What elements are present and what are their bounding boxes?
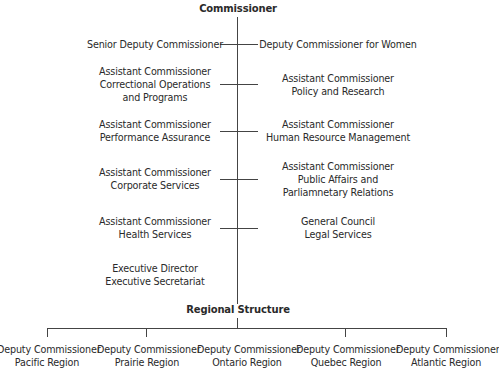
node-executive-director: Executive Director Executive Secretariat	[65, 262, 245, 288]
node-region-pacific: Deputy Commissioner Pacific Region	[0, 343, 97, 369]
regional-bar	[47, 328, 447, 329]
drop-prairie	[146, 328, 147, 337]
node-line: Legal Services	[238, 228, 438, 241]
node-line: and Programs	[65, 91, 245, 104]
node-region-ontario: Deputy Commissioner Ontario Region	[197, 343, 297, 369]
node-region-prairie: Deputy Commissioner Prairie Region	[97, 343, 197, 369]
node-line: Ontario Region	[197, 356, 297, 369]
node-line: Assistant Commissioner	[65, 166, 245, 179]
commissioner-title: Commissioner	[188, 2, 288, 15]
node-line: Deputy Commissioner	[296, 343, 396, 356]
node-line: Executive Director	[65, 262, 245, 275]
node-line: Assistant Commissioner	[238, 72, 438, 85]
node-ac-policy-research: Assistant Commissioner Policy and Resear…	[238, 72, 438, 98]
node-line: Parliamnetary Relations	[238, 186, 438, 199]
node-ac-correctional-operations: Assistant Commissioner Correctional Oper…	[65, 65, 245, 104]
node-line: Health Services	[65, 228, 245, 241]
node-line: Assistant Commissioner	[238, 118, 438, 131]
node-line: Correctional Operations	[65, 78, 245, 91]
node-line: Assistant Commissioner	[65, 65, 245, 78]
node-line: Deputy Commissioner	[0, 343, 97, 356]
node-region-atlantic: Deputy Commissioner Atlantic Region	[396, 343, 496, 369]
regional-structure-title: Regional Structure	[178, 303, 298, 316]
node-deputy-commissioner-women: Deputy Commissioner for Women	[238, 38, 438, 51]
node-ac-health-services: Assistant Commissioner Health Services	[65, 215, 245, 241]
node-line: Deputy Commissioner for Women	[238, 38, 438, 51]
node-line: Executive Secretariat	[65, 275, 245, 288]
drop-atlantic	[446, 328, 447, 337]
node-senior-deputy-commissioner: Senior Deputy Commissioner	[65, 38, 245, 51]
node-line: Deputy Commissioner	[396, 343, 496, 356]
node-line: Prairie Region	[97, 356, 197, 369]
node-line: Deputy Commissioner	[197, 343, 297, 356]
node-line: Assistant Commissioner	[65, 215, 245, 228]
node-ac-public-affairs: Assistant Commissioner Public Affairs an…	[238, 160, 438, 199]
node-line: Quebec Region	[296, 356, 396, 369]
drop-pacific	[47, 328, 48, 337]
node-line: Assistant Commissioner	[65, 118, 245, 131]
node-region-quebec: Deputy Commissioner Quebec Region	[296, 343, 396, 369]
node-line: Public Affairs and	[238, 173, 438, 186]
node-line: Atlantic Region	[396, 356, 496, 369]
drop-quebec	[345, 328, 346, 337]
node-line: Policy and Research	[238, 85, 438, 98]
node-ac-human-resource-management: Assistant Commissioner Human Resource Ma…	[238, 118, 438, 144]
node-general-council: General Council Legal Services	[238, 215, 438, 241]
node-line: General Council	[238, 215, 438, 228]
node-ac-corporate-services: Assistant Commissioner Corporate Service…	[65, 166, 245, 192]
node-ac-performance-assurance: Assistant Commissioner Performance Assur…	[65, 118, 245, 144]
node-line: Senior Deputy Commissioner	[65, 38, 245, 51]
node-line: Human Resource Management	[238, 131, 438, 144]
node-line: Corporate Services	[65, 179, 245, 192]
node-line: Pacific Region	[0, 356, 97, 369]
node-line: Deputy Commissioner	[97, 343, 197, 356]
node-line: Assistant Commissioner	[238, 160, 438, 173]
node-line: Performance Assurance	[65, 131, 245, 144]
